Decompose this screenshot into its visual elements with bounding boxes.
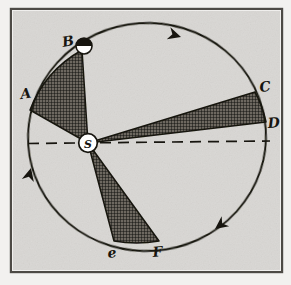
point-label-d: D	[266, 114, 281, 131]
figure-container: S A B C D e F	[0, 0, 291, 285]
point-label-c: C	[259, 78, 272, 95]
sun-marker: S	[79, 134, 98, 153]
planet-marker	[76, 38, 92, 54]
sun-label: S	[84, 138, 92, 151]
point-label-e: e	[107, 244, 118, 261]
orbit-diagram: S A B C D e F	[0, 0, 291, 285]
